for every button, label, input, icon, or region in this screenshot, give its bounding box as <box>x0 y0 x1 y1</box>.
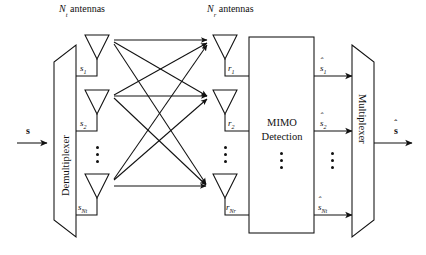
rx-signal-subscript-nr: Nr <box>230 208 236 214</box>
tx-antenna-2 <box>85 90 109 114</box>
estimated-signal-subscript-nt: Nt <box>322 208 328 214</box>
tx-signal-label-1: s1 <box>80 64 87 73</box>
rx-signal-symbol-1: r <box>228 63 232 73</box>
estimated-signal-subscript-1: 1 <box>324 69 327 75</box>
rx-antennas-header: Nr antennas <box>207 4 254 17</box>
demultiplexer-label-text: Demultiplexer <box>60 135 71 196</box>
multiplexer-label: Multiplexer <box>357 94 368 144</box>
tx-antennas-word: antennas <box>70 3 105 14</box>
demultiplexer-label: Demultiplexer <box>61 135 72 196</box>
rx-signal-label-2: r2 <box>228 119 235 128</box>
rx-signal-symbol-2: r <box>228 118 232 128</box>
rx-antenna-2 <box>213 90 237 114</box>
output-signal-symbol: s <box>394 126 398 136</box>
tx-signal-label-2: s2 <box>80 119 87 128</box>
tx-signal-subscript-nt: Nt <box>82 208 88 214</box>
estimated-signal-symbol-2: s <box>320 119 324 128</box>
rx-antennas-subscript: r <box>214 11 217 18</box>
tx-signal-symbol-1: s <box>80 63 84 73</box>
tx-signal-subscript-1: 1 <box>84 69 87 75</box>
tx-antennas-header: Nt antennas <box>59 4 105 17</box>
tx-signal-symbol-nt: s <box>78 202 82 212</box>
estimated-signal-label-1: s1 <box>320 64 327 73</box>
rx-antennas-symbol: N <box>207 3 214 14</box>
rx-antennas-word: antennas <box>219 3 254 14</box>
rx-antenna-1 <box>213 35 237 59</box>
tx-antennas-symbol: N <box>59 3 66 14</box>
tx-signal-symbol-2: s <box>80 118 84 128</box>
mimo-detection-label: MIMO Detection <box>256 118 308 142</box>
estimated-signal-symbol-nt: s <box>318 203 322 212</box>
rx-signal-label-1: r1 <box>228 64 235 73</box>
estimated-signal-subscript-2: 2 <box>324 124 327 130</box>
estimated-signal-symbol-1: s <box>320 64 324 73</box>
tx-antenna-1 <box>85 35 109 59</box>
rx-antenna-nr <box>213 174 237 198</box>
rx-signal-subscript-1: 1 <box>232 69 235 75</box>
multiplexer-label-text: Multiplexer <box>357 94 368 144</box>
estimated-signal-label-nt: sNt <box>318 203 327 212</box>
tx-signal-label-nt: sNt <box>78 203 87 212</box>
tx-antennas-ellipsis <box>96 146 99 167</box>
rx-signal-label-nr: rNr <box>226 203 236 212</box>
mimo-detection-line1: MIMO <box>256 118 308 129</box>
tx-signal-subscript-2: 2 <box>84 124 87 130</box>
estimated-signal-ellipsis <box>331 152 334 173</box>
mimo-system-diagram: Nt antennas Nr antennas s s Demultiplexe… <box>0 0 426 255</box>
rx-signal-symbol-nr: r <box>226 202 230 212</box>
output-signal-label: s <box>394 126 398 136</box>
input-signal-label: s <box>26 126 30 136</box>
estimated-signal-label-2: s2 <box>320 119 327 128</box>
rx-signal-subscript-2: 2 <box>232 124 235 130</box>
detection-ellipsis <box>280 152 283 173</box>
mimo-detection-line2: Detection <box>256 132 308 143</box>
input-signal-symbol: s <box>26 125 30 136</box>
tx-antenna-nt <box>85 174 109 198</box>
channel-paths <box>114 40 207 186</box>
rx-antennas-ellipsis <box>224 146 227 167</box>
